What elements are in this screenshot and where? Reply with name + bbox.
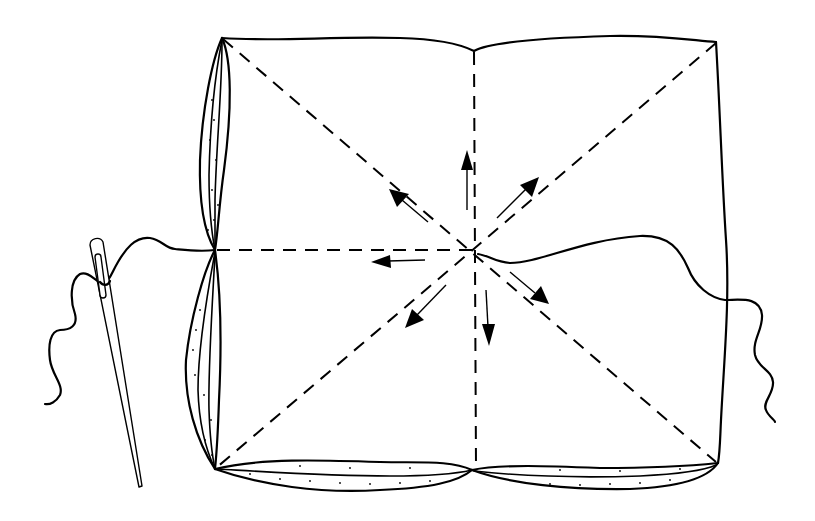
arrow-left-icon (371, 255, 425, 268)
fold-line-diagonal-tr-bl (216, 43, 716, 468)
bottom-left-pleat-upper (215, 460, 472, 470)
bottom-right-pleat-upper (472, 463, 718, 470)
arrow-down-left-icon (405, 285, 446, 328)
arrow-up-left-icon (389, 189, 428, 222)
arrow-up-icon (461, 150, 473, 210)
arrow-up-right-icon (497, 177, 539, 218)
sewing-thread (45, 236, 775, 422)
illustration-canvas (0, 0, 815, 521)
thread-left (45, 238, 215, 404)
left-lower-pleat-fold-2 (209, 254, 215, 469)
sewing-needle (90, 238, 142, 487)
pleat-stipple (192, 99, 681, 486)
fold-lines (216, 39, 716, 468)
fold-line-vertical (474, 52, 476, 468)
arrows (371, 150, 549, 346)
fabric-top-edge (222, 36, 716, 51)
arrow-down-right-icon (510, 272, 549, 304)
thread-right (478, 236, 775, 422)
bottom-left-pleat-fold (218, 469, 472, 476)
sewing-diagram: Line drawing: square of fabric being gat… (0, 0, 815, 521)
left-lower-pleat-inner (215, 250, 220, 469)
arrow-down-icon (482, 290, 495, 346)
bottom-left-pleat-lower (215, 469, 472, 491)
fabric-right-edge (716, 42, 727, 463)
